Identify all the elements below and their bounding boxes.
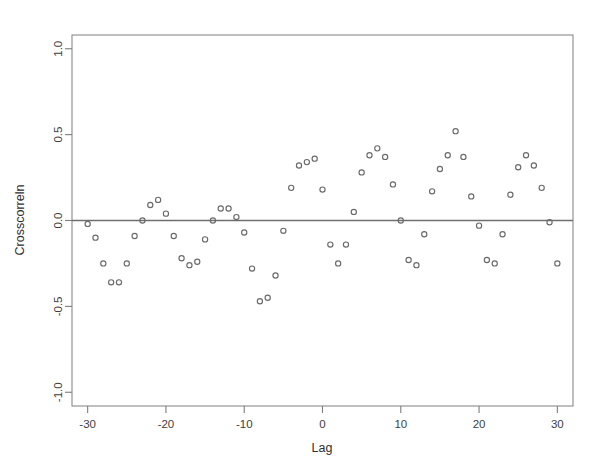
y-axis-tick-labels: -1.0-0.50.00.51.0 — [52, 41, 64, 402]
data-point — [187, 263, 192, 268]
y-axis-title: Crosscorreln — [13, 185, 27, 256]
data-point — [234, 214, 239, 219]
data-point — [296, 163, 301, 168]
data-point — [163, 211, 168, 216]
data-point-series — [85, 129, 560, 304]
crosscorrelation-plot: -1.0-0.50.00.51.0 -30-20-100102030 Lag C… — [0, 0, 605, 471]
y-tick-label: 1.0 — [52, 41, 64, 57]
data-point — [523, 153, 528, 158]
data-point — [312, 156, 317, 161]
x-axis-title: Lag — [312, 441, 333, 455]
x-axis-ticks — [88, 406, 558, 413]
data-point — [390, 182, 395, 187]
data-point — [516, 165, 521, 170]
data-point — [375, 146, 380, 151]
data-point — [156, 197, 161, 202]
data-point — [484, 257, 489, 262]
y-axis-ticks — [65, 49, 72, 393]
data-point — [109, 280, 114, 285]
x-axis-tick-labels: -30-20-100102030 — [79, 418, 563, 430]
x-tick-label: -30 — [79, 418, 96, 430]
data-point — [304, 160, 309, 165]
data-point — [116, 280, 121, 285]
data-point — [343, 242, 348, 247]
data-point — [422, 232, 427, 237]
y-tick-label: 0.0 — [52, 213, 64, 229]
data-point — [132, 233, 137, 238]
data-point — [320, 187, 325, 192]
data-point — [453, 129, 458, 134]
data-point — [476, 223, 481, 228]
data-point — [148, 202, 153, 207]
data-point — [124, 261, 129, 266]
x-tick-label: 0 — [319, 418, 325, 430]
data-point — [328, 242, 333, 247]
data-point — [500, 232, 505, 237]
data-point — [555, 261, 560, 266]
x-tick-label: -20 — [158, 418, 175, 430]
data-point — [367, 153, 372, 158]
data-point — [179, 256, 184, 261]
data-point — [257, 299, 262, 304]
x-tick-label: 30 — [551, 418, 564, 430]
data-point — [195, 259, 200, 264]
data-point — [85, 221, 90, 226]
data-point — [281, 228, 286, 233]
y-tick-label: -0.5 — [52, 296, 64, 316]
data-point — [359, 170, 364, 175]
data-point — [218, 206, 223, 211]
y-tick-label: 0.5 — [52, 127, 64, 143]
x-tick-label: 10 — [394, 418, 407, 430]
data-point — [492, 261, 497, 266]
data-point — [539, 185, 544, 190]
data-point — [265, 295, 270, 300]
data-point — [336, 261, 341, 266]
data-point — [531, 163, 536, 168]
data-point — [414, 263, 419, 268]
x-tick-label: 20 — [473, 418, 486, 430]
data-point — [461, 154, 466, 159]
data-point — [429, 189, 434, 194]
data-point — [445, 153, 450, 158]
data-point — [171, 233, 176, 238]
data-point — [406, 257, 411, 262]
data-point — [437, 166, 442, 171]
data-point — [351, 209, 356, 214]
data-point — [101, 261, 106, 266]
data-point — [383, 154, 388, 159]
y-tick-label: -1.0 — [52, 382, 64, 402]
data-point — [469, 194, 474, 199]
data-point — [273, 273, 278, 278]
plot-canvas: -1.0-0.50.00.51.0 -30-20-100102030 Lag C… — [0, 0, 605, 471]
x-tick-label: -10 — [236, 418, 253, 430]
data-point — [202, 237, 207, 242]
data-point — [289, 185, 294, 190]
data-point — [93, 235, 98, 240]
data-point — [242, 230, 247, 235]
data-point — [226, 206, 231, 211]
data-point — [508, 192, 513, 197]
data-point — [249, 266, 254, 271]
